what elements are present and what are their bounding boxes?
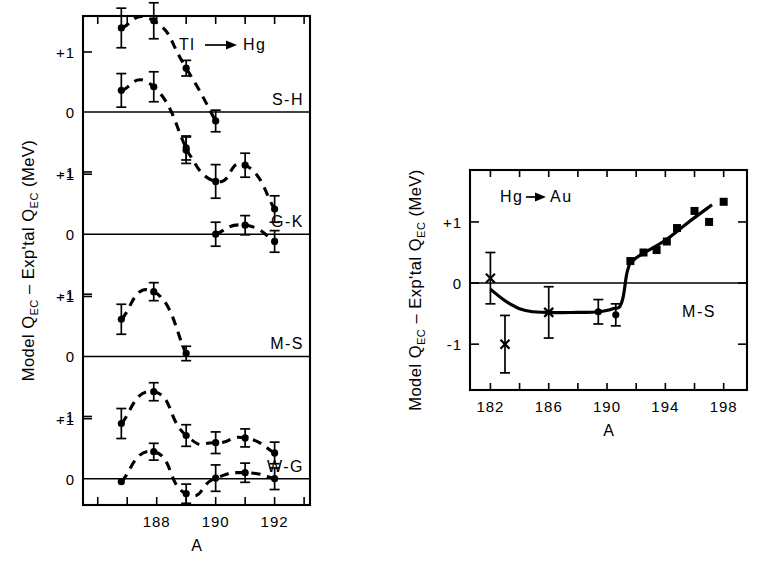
left-datapoint-W-G-3 (212, 439, 219, 446)
right-ytick-label-1: +1 (443, 214, 462, 231)
left-datapoint-W-G-3 (212, 475, 219, 482)
right-arrow-icon-2 (535, 193, 546, 202)
right-xtick-label-194: 194 (651, 398, 679, 415)
left-curve-W-G-lower-branch (121, 451, 274, 495)
left-reaction-to: Hg (243, 36, 266, 53)
left-panel-label-W-G: W-G (267, 458, 304, 475)
right-reaction-from: Hg (500, 188, 523, 205)
right-xaxis-title: A (603, 422, 614, 439)
left-datapoint-W-G-0 (118, 478, 125, 485)
left-datapoint-S-H-0 (118, 24, 125, 31)
left-curve-S-H-upper-branch (121, 17, 215, 121)
left-datapoint-G-K-0 (183, 147, 190, 154)
left-panel-label-G-K: G-K (271, 213, 304, 230)
left-panel-label-S-H: S-H (272, 91, 304, 108)
right-ytick-label-0: 0 (453, 275, 462, 292)
right-marker-circle-1 (612, 311, 619, 318)
left-datapoint-W-G-2 (183, 490, 190, 497)
left-yaxis-title-group: Model QEC – Exp'tal QEC (MeV) (19, 140, 40, 382)
left-plot-frame (83, 16, 310, 505)
left-datapoint-G-K-3 (271, 205, 278, 212)
right-arrow-icon (226, 41, 237, 50)
left-datapoint-M-S-2 (183, 350, 190, 357)
right-xtick-label-190: 190 (593, 398, 621, 415)
left-datapoint-W-G-2 (183, 432, 190, 439)
left-ytick-label-S-H-0: 0 (66, 104, 75, 121)
left-ytick-label-M-S-0: 0 (66, 348, 75, 365)
right-reaction-to: Au (550, 188, 573, 205)
left-datapoint-M-S-0 (118, 316, 125, 323)
left-datapoint-M-S-1 (150, 288, 157, 295)
left-xtick-label-190: 190 (202, 513, 230, 530)
right-xtick-label-198: 198 (710, 398, 738, 415)
left-panel-label-M-S: M-S (270, 335, 304, 352)
right-panel-label: M-S (682, 303, 716, 320)
left-datapoint-W-G-4 (242, 469, 249, 476)
left-curve-G-K-main-branch (186, 150, 274, 209)
left-datapoint-S-H-3 (212, 117, 219, 124)
right-marker-square-7 (720, 198, 728, 206)
left-datapoint-W-G-1 (150, 448, 157, 455)
left-datapoint-S-H-1 (150, 17, 157, 24)
left-xaxis-title: A (191, 537, 202, 554)
right-xtick-label-186: 186 (535, 398, 563, 415)
left-ytick-label-W-G-1: +1 (56, 411, 75, 428)
left-ytick-label-W-G-0: 0 (66, 471, 75, 488)
left-yaxis-title: Model QEC – Exp'tal QEC (MeV) (19, 140, 40, 382)
left-ytick-label-G-K-0: 0 (66, 226, 75, 243)
right-yaxis-title: Model QEC – Exp'tal QEC (MeV) (406, 169, 427, 411)
left-datapoint-S-H-1 (150, 83, 157, 90)
right-curve-fit-curve (490, 205, 712, 313)
left-ytick-label-G-K-1: +1 (56, 166, 75, 183)
left-ytick-label-M-S-1: +1 (56, 288, 75, 305)
left-datapoint-W-G-1 (150, 388, 157, 395)
left-datapoint-S-H-2 (183, 65, 190, 72)
figure-svg: 188190192A+1-10S-H+1-10G-K+1-10M-S+10W-G… (0, 0, 767, 566)
left-reaction-from: Tl (179, 36, 195, 53)
left-xtick-label-192: 192 (261, 513, 289, 530)
right-ytick-label--1: -1 (447, 336, 462, 353)
right-yaxis-title-group: Model QEC – Exp'tal QEC (MeV) (406, 169, 427, 411)
left-datapoint-G-K-2 (242, 162, 249, 169)
right-marker-square-6 (705, 218, 713, 226)
left-datapoint-W-G-5 (271, 475, 278, 482)
left-ytick-label-S-H-1: +1 (56, 44, 75, 61)
left-xtick-label-188: 188 (143, 513, 171, 530)
left-datapoint-G-K-1 (242, 222, 249, 229)
left-datapoint-G-K-1 (212, 178, 219, 185)
left-datapoint-W-G-4 (242, 434, 249, 441)
figure-container: 188190192A+1-10S-H+1-10G-K+1-10M-S+10W-G… (0, 0, 767, 566)
left-datapoint-G-K-2 (271, 238, 278, 245)
left-datapoint-W-G-0 (118, 420, 125, 427)
left-datapoint-W-G-5 (271, 449, 278, 456)
right-xtick-label-182: 182 (476, 398, 504, 415)
left-curve-W-G-upper-branch (121, 391, 274, 453)
left-datapoint-G-K-0 (212, 231, 219, 238)
left-datapoint-S-H-0 (118, 87, 125, 94)
